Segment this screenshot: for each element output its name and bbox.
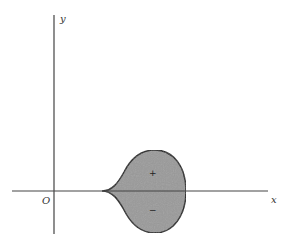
positive-sign: + xyxy=(149,168,157,178)
x-axis-label: x xyxy=(271,194,277,205)
diagram-canvas: y x O + − xyxy=(0,0,298,247)
negative-sign: − xyxy=(149,205,157,215)
y-axis-label: y xyxy=(59,13,66,24)
origin-label: O xyxy=(42,195,50,206)
